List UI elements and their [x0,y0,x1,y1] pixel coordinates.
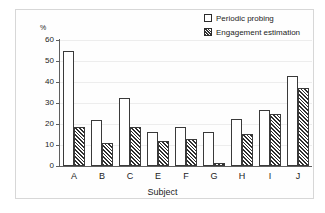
bar-f-series1 [175,127,186,166]
x-tick-label: H [227,172,257,181]
bar-b-series1 [91,120,102,166]
bar-a-series1 [63,51,74,167]
x-tick-label: A [59,172,89,181]
bar-h-series2 [242,134,253,166]
hatched-square-icon [204,28,212,36]
bar-group [63,40,85,166]
legend-item-label: Engagement estimation [216,28,300,37]
bar-group [91,40,113,166]
bar-group [231,40,253,166]
x-tick-label: J [283,172,313,181]
bar-group [147,40,169,166]
y-tick-label: 60 [30,36,54,44]
legend-item-engagement-estimation: Engagement estimation [204,27,300,37]
y-tick-label: 10 [30,141,54,149]
x-tick-label: I [255,172,285,181]
x-tick-label: B [87,172,117,181]
plot-area [60,40,312,166]
x-tick-label: C [115,172,145,181]
x-tick-label: G [199,172,229,181]
bar-group [259,40,281,166]
bar-i-series2 [270,114,281,167]
bar-j-series2 [298,88,309,166]
legend-item-periodic-probing: Periodic probing [204,13,300,23]
chart-figure: Periodic probing Engagement estimation %… [0,0,325,213]
bar-c-series1 [119,98,130,166]
x-tick-label: F [171,172,201,181]
x-axis-line [59,166,312,167]
x-tick-label: E [143,172,173,181]
bar-f-series2 [186,139,197,166]
bar-e-series2 [158,141,169,166]
y-tick-label: 30 [30,99,54,107]
bar-b-series2 [102,143,113,166]
y-tick-label: 20 [30,120,54,128]
dotted-square-icon [204,14,212,22]
y-tick-mark [56,166,60,167]
bar-i-series1 [259,110,270,166]
bar-g-series2 [214,163,225,166]
y-axis-unit-label: % [40,24,46,31]
bar-e-series1 [147,132,158,166]
bar-g-series1 [203,132,214,166]
bar-group [119,40,141,166]
y-tick-label: 40 [30,78,54,86]
chart-legend: Periodic probing Engagement estimation [204,13,300,37]
bar-group [287,40,309,166]
x-axis-title: Subject [0,187,325,197]
bar-a-series2 [74,127,85,166]
bar-c-series2 [130,127,141,166]
bar-j-series1 [287,76,298,166]
y-tick-label: 50 [30,57,54,65]
bar-group [175,40,197,166]
y-tick-label: 0 [30,162,54,170]
bar-group [203,40,225,166]
bar-h-series1 [231,119,242,166]
legend-item-label: Periodic probing [216,14,274,23]
